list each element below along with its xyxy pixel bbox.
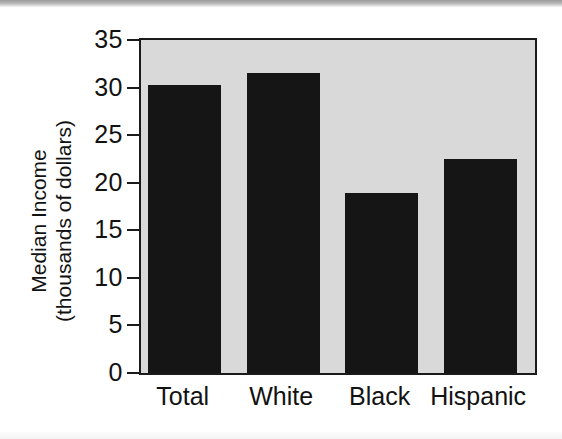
x-tick-label-hispanic: Hispanic	[428, 381, 529, 411]
bar-hispanic	[444, 159, 517, 373]
bar-chart-figure: 05101520253035 Median Income (thousands …	[0, 0, 562, 439]
x-tick-label-total: Total	[132, 381, 233, 411]
x-tick-label-white: White	[231, 381, 332, 411]
x-tick-label-black: Black	[329, 381, 430, 411]
bar-black	[345, 193, 418, 373]
plot-area	[139, 38, 537, 375]
y-axis-title-line-1: Median Income	[26, 66, 51, 376]
y-axis-title: Median Income (thousands of dollars)	[26, 66, 76, 376]
bar-total	[148, 85, 221, 373]
y-axis-title-line-2: (thousands of dollars)	[51, 66, 76, 376]
bar-white	[247, 73, 320, 373]
x-axis-tick-labels: TotalWhiteBlackHispanic	[139, 381, 537, 417]
y-tick-label: 35	[63, 27, 123, 52]
